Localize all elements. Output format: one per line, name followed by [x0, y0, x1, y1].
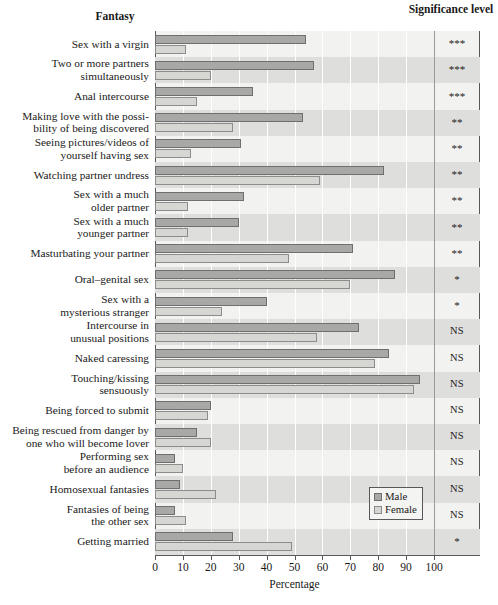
bar-male — [155, 480, 180, 489]
chart-figure: Fantasy Significance level Sex with a vi… — [0, 0, 498, 605]
bar-male — [155, 506, 175, 515]
bar-female — [155, 149, 191, 158]
category-label: Oral–genital sex — [4, 273, 149, 286]
significance-value: ** — [434, 194, 480, 206]
significance-value: NS — [434, 404, 480, 415]
legend-swatch-male-icon — [374, 493, 382, 501]
bar-male — [155, 401, 211, 410]
fantasy-column-header: Fantasy — [55, 10, 175, 23]
gridline — [211, 31, 212, 555]
category-label: Performing sex before an audience — [4, 450, 149, 476]
bar-male — [155, 532, 233, 541]
x-tick — [434, 555, 435, 560]
gridline — [406, 31, 407, 555]
category-label: Sex with a mysterious stranger — [4, 293, 149, 319]
x-tick — [295, 555, 296, 560]
category-label: Anal intercourse — [4, 90, 149, 103]
bar-female — [155, 542, 292, 551]
bar-female — [155, 411, 208, 420]
gridline — [350, 31, 351, 555]
bar-female — [155, 516, 186, 525]
bar-female — [155, 464, 183, 473]
bar-female — [155, 123, 233, 132]
significance-value: ** — [434, 221, 480, 233]
bar-female — [155, 307, 222, 316]
x-tick — [350, 555, 351, 560]
bar-male — [155, 139, 241, 148]
gridline — [378, 31, 379, 555]
bar-male — [155, 244, 353, 253]
x-tick — [155, 555, 156, 560]
category-label: Two or more partners simultaneously — [4, 57, 149, 83]
bar-female — [155, 438, 211, 447]
significance-value: *** — [434, 63, 480, 75]
bar-female — [155, 333, 317, 342]
category-label: Making love with the possi- bility of be… — [4, 110, 149, 136]
category-label: Sex with a virgin — [4, 38, 149, 51]
category-label: Touching/kissing sensuously — [4, 372, 149, 398]
bar-male — [155, 61, 314, 70]
gridline — [267, 31, 268, 555]
category-label: Sex with a much younger partner — [4, 215, 149, 241]
x-tick — [239, 555, 240, 560]
category-label: Getting married — [4, 535, 149, 548]
significance-value: * — [434, 535, 480, 547]
legend-item-female: Female — [374, 503, 417, 516]
legend-label-female: Female — [385, 503, 417, 516]
significance-value: NS — [434, 456, 480, 467]
significance-value: *** — [434, 37, 480, 49]
bar-male — [155, 454, 175, 463]
significance-value: *** — [434, 90, 480, 102]
significance-value: NS — [434, 325, 480, 336]
x-axis-line — [155, 555, 480, 556]
gridline — [434, 31, 435, 555]
bar-female — [155, 45, 186, 54]
bar-female — [155, 202, 188, 211]
significance-column-header: Significance level — [408, 3, 494, 16]
bar-male — [155, 297, 267, 306]
category-label: Sex with a much older partner — [4, 188, 149, 214]
bar-male — [155, 113, 303, 122]
significance-value: * — [434, 299, 480, 311]
legend-swatch-female-icon — [374, 506, 382, 514]
x-tick — [267, 555, 268, 560]
category-label: Watching partner undress — [4, 169, 149, 182]
gridline — [183, 31, 184, 555]
bar-female — [155, 97, 197, 106]
bar-male — [155, 323, 359, 332]
gridline — [239, 31, 240, 555]
significance-value: NS — [434, 352, 480, 363]
gridline — [295, 31, 296, 555]
bar-male — [155, 218, 239, 227]
significance-value: NS — [434, 483, 480, 494]
legend-label-male: Male — [385, 490, 407, 503]
bar-female — [155, 254, 289, 263]
bar-female — [155, 71, 211, 80]
bar-female — [155, 490, 216, 499]
x-tick — [183, 555, 184, 560]
bar-female — [155, 280, 350, 289]
category-label: Seeing pictures/videos of yourself havin… — [4, 136, 149, 162]
bar-male — [155, 166, 384, 175]
bar-female — [155, 385, 414, 394]
significance-value: NS — [434, 378, 480, 389]
gridline — [322, 31, 323, 555]
category-label: Homosexual fantasies — [4, 483, 149, 496]
category-label: Fantasies of being the other sex — [4, 503, 149, 529]
category-label: Masturbating your partner — [4, 247, 149, 260]
bar-female — [155, 176, 320, 185]
bar-male — [155, 349, 389, 358]
bar-male — [155, 270, 395, 279]
category-label: Intercourse in unusual positions — [4, 319, 149, 345]
bar-male — [155, 428, 197, 437]
x-tick — [378, 555, 379, 560]
category-label: Naked caressing — [4, 352, 149, 365]
x-axis-label: Percentage — [155, 578, 434, 590]
bar-female — [155, 359, 375, 368]
significance-value: * — [434, 273, 480, 285]
category-label: Being rescued from danger by one who wil… — [4, 424, 149, 450]
bar-male — [155, 192, 244, 201]
x-tick — [322, 555, 323, 560]
bar-female — [155, 228, 188, 237]
significance-value: NS — [434, 509, 480, 520]
